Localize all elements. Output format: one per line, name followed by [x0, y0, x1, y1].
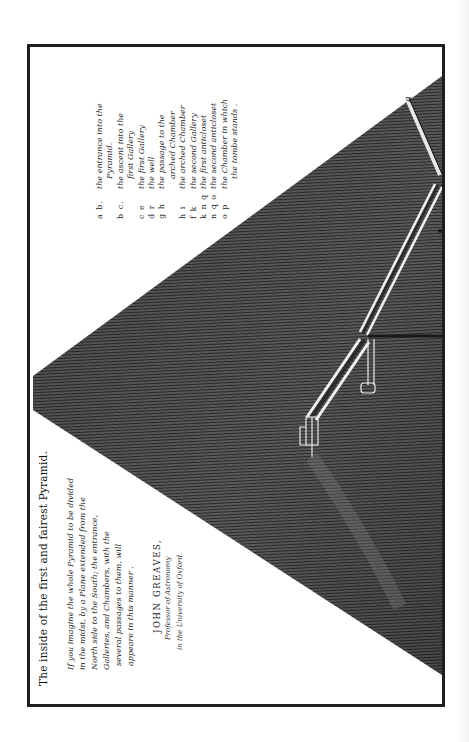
legend-row: g hthe passage to the: [157, 99, 167, 219]
author-role: Professor of Astronomy: [164, 557, 172, 640]
legend-row: n q othe second anticloset: [209, 99, 219, 219]
legend-row: k n qthe first anticloset: [199, 99, 209, 219]
legend-row: c ethe first Gallery: [137, 99, 147, 219]
legend-row: d rthe well: [147, 99, 157, 219]
legend-row: o pthe Chamber in which: [220, 99, 230, 219]
legend-row: a b.the entrance into the: [95, 99, 105, 219]
legend: a b.the entrance into the Pyramid. b c.t…: [95, 99, 241, 219]
legend-row: h ithe arched Chamber: [178, 99, 188, 219]
author-institution: in the University of Oxford.: [176, 553, 184, 650]
page-edge: [455, 0, 469, 742]
plate-title: The inside of the first and fairest Pyra…: [37, 451, 49, 686]
legend-row: f kthe second Gallery: [189, 99, 199, 219]
plate-description: If you imagine the whole Pyramid to be d…: [65, 478, 137, 670]
legend-row: b c.the ascent into the: [116, 99, 126, 219]
author-name: JOHN GREAVES,: [152, 539, 162, 633]
label-a: a: [403, 96, 413, 101]
